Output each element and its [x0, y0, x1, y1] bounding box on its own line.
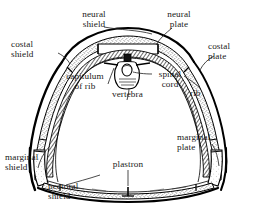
neural-shield-line1: neural	[82, 9, 106, 19]
marginal-plate-right	[208, 150, 222, 186]
label-costal-shield: costal shield	[11, 39, 59, 59]
label-neural-shield: neural shield	[66, 9, 122, 29]
pectoral-shield-line2: shield	[48, 191, 71, 201]
label-marginal-plate: marginal plate	[177, 132, 229, 152]
label-costal-plate: costal plate	[208, 41, 254, 61]
marginal-shield-line1: marginal	[5, 152, 38, 162]
label-spinal-cord: spinal cord	[153, 69, 187, 89]
neural-plate-line1: neural	[167, 9, 191, 19]
capitulum-of-rib-left	[104, 63, 118, 65]
marginal-plate-line2: plate	[177, 142, 195, 152]
costal-plate-line1: costal	[208, 41, 230, 51]
label-pectoral-shield: pectoral shield	[48, 181, 98, 201]
pectoral-shield-line1: pectoral	[48, 181, 78, 191]
capitulum-line1: capitulum	[66, 71, 104, 81]
label-rib: rib	[190, 88, 201, 98]
diagram-artwork	[0, 0, 256, 206]
turtle-shell-diagram: neural shield neural plate costal shield…	[0, 0, 256, 206]
label-neural-plate: neural plate	[154, 9, 204, 29]
label-plastron: plastron	[104, 159, 152, 169]
capitulum-of-rib-right	[136, 63, 150, 65]
costal-plate-line2: plate	[208, 51, 226, 61]
costal-shield-line1: costal	[11, 39, 33, 49]
neural-shield-line2: shield	[83, 19, 106, 29]
spinal-cord-line1: spinal	[159, 69, 182, 79]
marginal-shield-line2: shield	[5, 162, 28, 172]
marginal-plate-line1: marginal	[177, 132, 210, 142]
costal-shield-line2: shield	[11, 49, 34, 59]
label-marginal-shield: marginal shield	[5, 152, 57, 172]
label-vertebra: vertebra	[112, 89, 143, 99]
capitulum-line2: of rib	[75, 81, 96, 91]
neural-plate-line2: plate	[170, 19, 188, 29]
label-capitulum-of-rib: capitulum of rib	[56, 71, 114, 91]
spinal-cord-line2: cord	[162, 79, 179, 89]
